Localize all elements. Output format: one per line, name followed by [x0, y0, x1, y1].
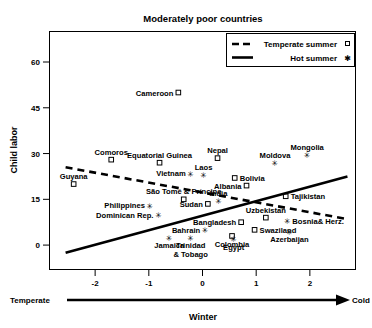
y-tick-label: 60	[31, 58, 40, 67]
point-label: Azerbaijan	[270, 235, 309, 244]
marker-star: ✳	[272, 159, 279, 168]
point-label: Mongolia	[291, 143, 325, 152]
point-label: Dominican Rep.	[96, 211, 153, 220]
legend[interactable]: Temperate summer Hot summer ✱	[227, 34, 355, 67]
x-axis-label: Winter	[189, 312, 217, 322]
marker-square	[71, 182, 76, 187]
y-axis-ticks: 015304560	[31, 58, 49, 250]
marker-star: ✳	[200, 171, 207, 180]
data-markers: ✳✳✳✳✳✳✳✳✳✳✳✳✳	[71, 90, 310, 244]
marker-square	[264, 215, 269, 220]
marker-square	[206, 202, 211, 207]
marker-square	[109, 157, 114, 162]
y-tick-label: 30	[31, 150, 40, 159]
point-label: Equatorial Guinea	[127, 151, 193, 160]
x-axis-left-label: Temperate	[10, 296, 50, 305]
point-label: India	[210, 189, 228, 198]
point-label: Nepal	[207, 146, 228, 155]
legend-star-icon: ✱	[344, 54, 351, 63]
marker-star: ✳	[215, 197, 222, 206]
marker-square	[239, 220, 244, 225]
point-label: Tajikistan	[291, 192, 326, 201]
chart-title: Moderately poor countries	[143, 13, 262, 24]
y-tick-label: 45	[31, 104, 40, 113]
point-label: Laos	[195, 163, 213, 172]
point-label: Comoros	[95, 148, 128, 157]
point-label: Bosnia& Herz.	[292, 217, 343, 226]
scatter-plot-svg: Moderately poor countries Child labor 01…	[0, 0, 372, 328]
point-label: Trinidad	[176, 241, 206, 250]
point-label: Bolivia	[240, 174, 266, 183]
axis-arrow-head	[336, 295, 350, 306]
y-tick-label: 0	[36, 241, 41, 250]
x-tick-label: 1	[254, 279, 259, 288]
marker-square	[176, 90, 181, 95]
legend-label-temperate-summer: Temperate summer	[264, 40, 337, 49]
marker-star: ✳	[155, 211, 162, 220]
legend-label-hot-summer: Hot summer	[290, 54, 337, 63]
x-axis-right-label: Cold	[352, 296, 370, 305]
chart-container: Moderately poor countries Child labor 01…	[0, 0, 372, 328]
marker-square	[157, 160, 162, 165]
x-axis-ticks: -2-1012	[92, 270, 313, 289]
marker-square	[232, 176, 237, 181]
x-tick-label: 0	[200, 279, 205, 288]
marker-square	[244, 183, 249, 188]
point-label: & Tobago	[173, 250, 208, 259]
point-label: Cameroon	[136, 89, 174, 98]
y-axis-label: Child labor	[9, 126, 19, 173]
marker-square	[215, 156, 220, 161]
point-label: Uzbekistan	[246, 206, 286, 215]
x-tick-label: -1	[145, 279, 153, 288]
x-tick-label: 2	[308, 279, 313, 288]
point-label: Swaziland	[260, 226, 297, 235]
marker-star: ✳	[147, 202, 154, 211]
x-tick-label: -2	[92, 279, 100, 288]
point-label: Guyana	[60, 172, 89, 181]
winter-axis-arrow: Temperate Cold	[10, 295, 370, 306]
marker-star: ✳	[304, 151, 311, 160]
marker-star: ✳	[202, 226, 209, 235]
point-label: Sudan	[180, 200, 204, 209]
point-label: Egypt	[223, 243, 245, 252]
marker-square	[252, 228, 257, 233]
point-label: Philippines	[104, 201, 145, 210]
y-tick-label: 15	[31, 195, 40, 204]
marker-star: ✳	[187, 170, 194, 179]
point-label: Vietnam	[156, 169, 186, 178]
point-label: Bahrain	[172, 226, 201, 235]
marker-star: ✳	[284, 217, 291, 226]
point-label: Moldova	[260, 151, 292, 160]
